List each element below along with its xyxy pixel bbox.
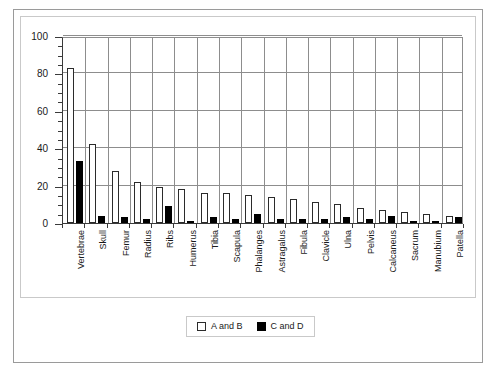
bar-group <box>108 36 130 223</box>
figure-caption <box>13 370 483 379</box>
x-tick-label: Phalanges <box>255 230 264 273</box>
bar-c-and-d <box>187 221 194 223</box>
x-tick-label: Femur <box>122 230 131 256</box>
legend-entry-c-and-d: C and D <box>257 322 304 331</box>
x-tick <box>352 224 353 228</box>
bar-c-and-d <box>76 161 83 223</box>
bar-group <box>330 36 352 223</box>
bar-group <box>152 36 174 223</box>
chart-legend: A and B C and D <box>186 316 315 337</box>
y-tick-label: 60 <box>37 107 48 117</box>
x-tick <box>307 224 308 228</box>
plot-area <box>62 37 463 224</box>
bar-group <box>375 36 397 223</box>
bar-a-and-b <box>268 197 275 223</box>
bar-a-and-b <box>446 216 453 223</box>
bar-c-and-d <box>254 214 261 223</box>
x-tick-label: Radius <box>144 230 153 258</box>
bar-group <box>63 36 85 223</box>
bar-group <box>308 36 330 223</box>
x-tick <box>374 224 375 228</box>
x-tick <box>263 224 264 228</box>
y-tick-major <box>55 224 62 225</box>
bar-c-and-d <box>210 217 217 223</box>
x-tick <box>129 224 130 228</box>
bar-a-and-b <box>290 199 297 223</box>
bar-c-and-d <box>143 219 150 223</box>
x-tick <box>396 224 397 228</box>
bar-a-and-b <box>134 182 141 223</box>
bar-c-and-d <box>388 216 395 223</box>
y-tick-major <box>55 37 62 38</box>
bar-c-and-d <box>98 216 105 223</box>
bar-c-and-d <box>165 206 172 223</box>
bar-group <box>219 36 241 223</box>
y-tick-major <box>55 149 62 150</box>
x-tick-label: Ribs <box>166 230 175 248</box>
bar-a-and-b <box>334 204 341 223</box>
x-tick-label: Skull <box>99 230 108 250</box>
x-tick <box>173 224 174 228</box>
y-tick-label: 0 <box>42 219 48 229</box>
bar-group <box>197 36 219 223</box>
bar-a-and-b <box>423 214 430 223</box>
bar-group <box>397 36 419 223</box>
x-tick-label: Sacrum <box>411 230 420 261</box>
x-tick-label: Patella <box>456 230 465 258</box>
bar-group <box>442 36 464 223</box>
y-tick-major <box>55 112 62 113</box>
x-tick <box>240 224 241 228</box>
legend-label: A and B <box>211 322 243 331</box>
y-tick-label: 80 <box>37 69 48 79</box>
bar-c-and-d <box>299 219 306 223</box>
x-tick <box>196 224 197 228</box>
bar-c-and-d <box>410 221 417 223</box>
bar-group <box>241 36 263 223</box>
bar-c-and-d <box>121 217 128 223</box>
x-tick-label: Ulna <box>344 230 353 249</box>
x-tick-label: Scapula <box>233 230 242 263</box>
x-tick-label: Manubium <box>434 230 443 272</box>
legend-label: C and D <box>271 322 304 331</box>
x-tick-label: Astragalus <box>278 230 287 273</box>
bar-c-and-d <box>343 217 350 223</box>
bar-a-and-b <box>312 202 319 223</box>
bar-c-and-d <box>277 219 284 223</box>
bar-c-and-d <box>366 219 373 223</box>
x-tick-label: Pelvis <box>367 230 376 254</box>
bar-a-and-b <box>357 208 364 223</box>
x-tick-label: Humerus <box>189 230 198 267</box>
x-tick <box>151 224 152 228</box>
bar-c-and-d <box>232 219 239 223</box>
figure-page: 020406080100 VertebraeSkullFemurRadiusRi… <box>0 0 497 379</box>
bar-c-and-d <box>455 217 462 223</box>
y-tick-major <box>55 74 62 75</box>
x-tick <box>84 224 85 228</box>
bar-group <box>174 36 196 223</box>
bar-a-and-b <box>178 189 185 223</box>
bar-group <box>85 36 107 223</box>
bar-a-and-b <box>401 212 408 223</box>
bar-c-and-d <box>321 219 328 223</box>
legend-entry-a-and-b: A and B <box>197 322 243 331</box>
y-tick-label: 20 <box>37 182 48 192</box>
y-axis: 020406080100 <box>0 0 62 379</box>
x-tick <box>418 224 419 228</box>
x-tick <box>107 224 108 228</box>
filled-square-swatch-icon <box>257 322 266 331</box>
x-tick <box>62 224 63 228</box>
x-tick <box>463 224 464 228</box>
bar-group <box>286 36 308 223</box>
x-tick-label: Tibia <box>211 230 220 249</box>
x-tick-label: Vertebrae <box>77 230 86 269</box>
x-tick <box>285 224 286 228</box>
open-square-swatch-icon <box>197 322 206 331</box>
bar-a-and-b <box>223 193 230 223</box>
bar-c-and-d <box>432 221 439 223</box>
y-tick-label: 100 <box>31 32 48 42</box>
bar-a-and-b <box>112 171 119 223</box>
bar-group <box>419 36 441 223</box>
bar-a-and-b <box>156 187 163 223</box>
x-tick <box>441 224 442 228</box>
bar-a-and-b <box>201 193 208 223</box>
